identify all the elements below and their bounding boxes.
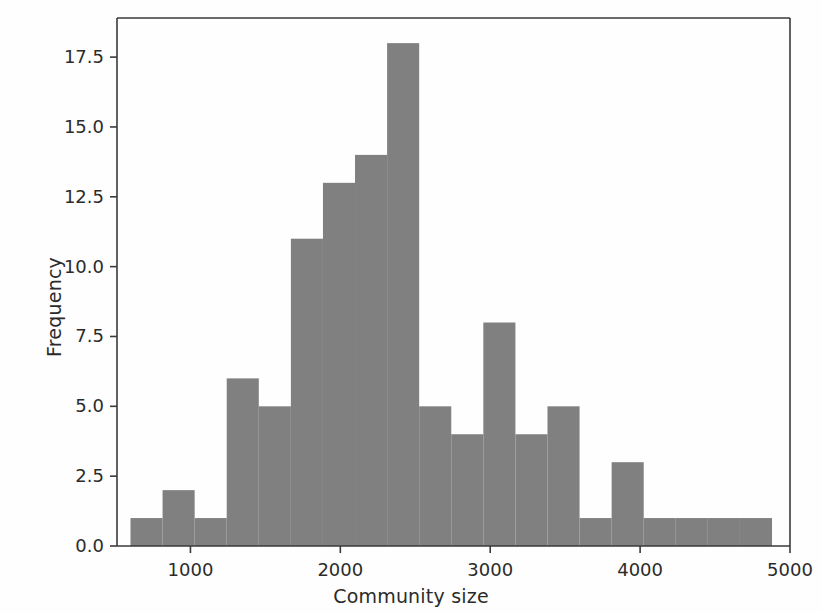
histogram-bar	[483, 323, 515, 546]
plot-area: 10002000300040005000 0.02.55.07.510.012.…	[0, 0, 822, 613]
x-tick-label: 3000	[467, 559, 513, 580]
histogram-bar	[419, 406, 451, 546]
histogram-bar	[740, 518, 772, 546]
histogram-bar	[195, 518, 227, 546]
y-tick-label: 2.5	[75, 465, 104, 486]
histogram-bar	[130, 518, 162, 546]
y-axis-ticks: 0.02.55.07.510.012.515.017.5	[64, 46, 117, 556]
histogram-bar	[676, 518, 708, 546]
histogram-bar	[323, 183, 355, 546]
histogram-bar	[355, 155, 387, 546]
histogram-bar	[227, 378, 259, 546]
histogram-bars	[130, 43, 772, 546]
histogram-bar	[259, 406, 291, 546]
histogram-figure: Frequency Community size 100020003000400…	[0, 0, 822, 613]
x-tick-label: 5000	[767, 559, 813, 580]
x-tick-label: 1000	[168, 559, 214, 580]
y-tick-label: 7.5	[75, 325, 104, 346]
histogram-bar	[580, 518, 612, 546]
histogram-bar	[612, 462, 644, 546]
y-tick-label: 17.5	[64, 46, 104, 67]
y-tick-label: 12.5	[64, 186, 104, 207]
histogram-bar	[708, 518, 740, 546]
histogram-bar	[515, 434, 547, 546]
histogram-bar	[291, 239, 323, 546]
y-tick-label: 15.0	[64, 116, 104, 137]
histogram-bar	[163, 490, 195, 546]
y-tick-label: 5.0	[75, 395, 104, 416]
x-axis-ticks: 10002000300040005000	[168, 546, 813, 580]
x-tick-label: 2000	[317, 559, 363, 580]
y-tick-label: 0.0	[75, 535, 104, 556]
histogram-bar	[451, 434, 483, 546]
x-tick-label: 4000	[617, 559, 663, 580]
histogram-bar	[644, 518, 676, 546]
y-tick-label: 10.0	[64, 256, 104, 277]
histogram-bar	[387, 43, 419, 546]
histogram-bar	[547, 406, 579, 546]
